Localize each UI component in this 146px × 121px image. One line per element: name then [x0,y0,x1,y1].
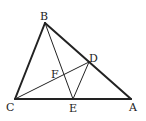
label-d: D [89,52,98,65]
side-ba [45,23,131,99]
label-e: E [69,102,77,115]
label-a: A [128,101,138,114]
label-c: C [6,101,14,114]
label-f: F [51,68,59,81]
segment-de [73,62,89,99]
label-b: B [40,10,48,23]
side-bc [15,23,45,99]
triangle-diagram: B C E A D F [0,0,146,121]
